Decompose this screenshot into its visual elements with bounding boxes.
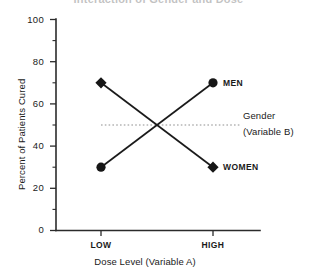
y-axis-title: Percent of Patients Cured <box>16 79 27 190</box>
legend-heading: Gender <box>243 110 275 121</box>
plot-canvas <box>0 0 317 276</box>
series-label-women: WOMEN <box>223 162 259 172</box>
series-label-men: MEN <box>223 78 243 88</box>
x-axis-ticks <box>101 231 213 237</box>
y-tick-label-0: 0 <box>10 224 44 235</box>
data-point-men-low <box>96 163 105 172</box>
data-point-men-high <box>208 78 217 87</box>
x-tick-label-high: HIGH <box>183 240 243 250</box>
x-axis-title: Dose Level (Variable A) <box>0 256 290 267</box>
y-tick-label-100: 100 <box>10 14 44 25</box>
y-tick-label-80: 80 <box>10 56 44 67</box>
legend-subheading: (Variable B) <box>243 126 294 137</box>
x-tick-label-low: LOW <box>71 240 131 250</box>
interaction-plot: Interaction of Gender and Dose <box>0 0 317 276</box>
